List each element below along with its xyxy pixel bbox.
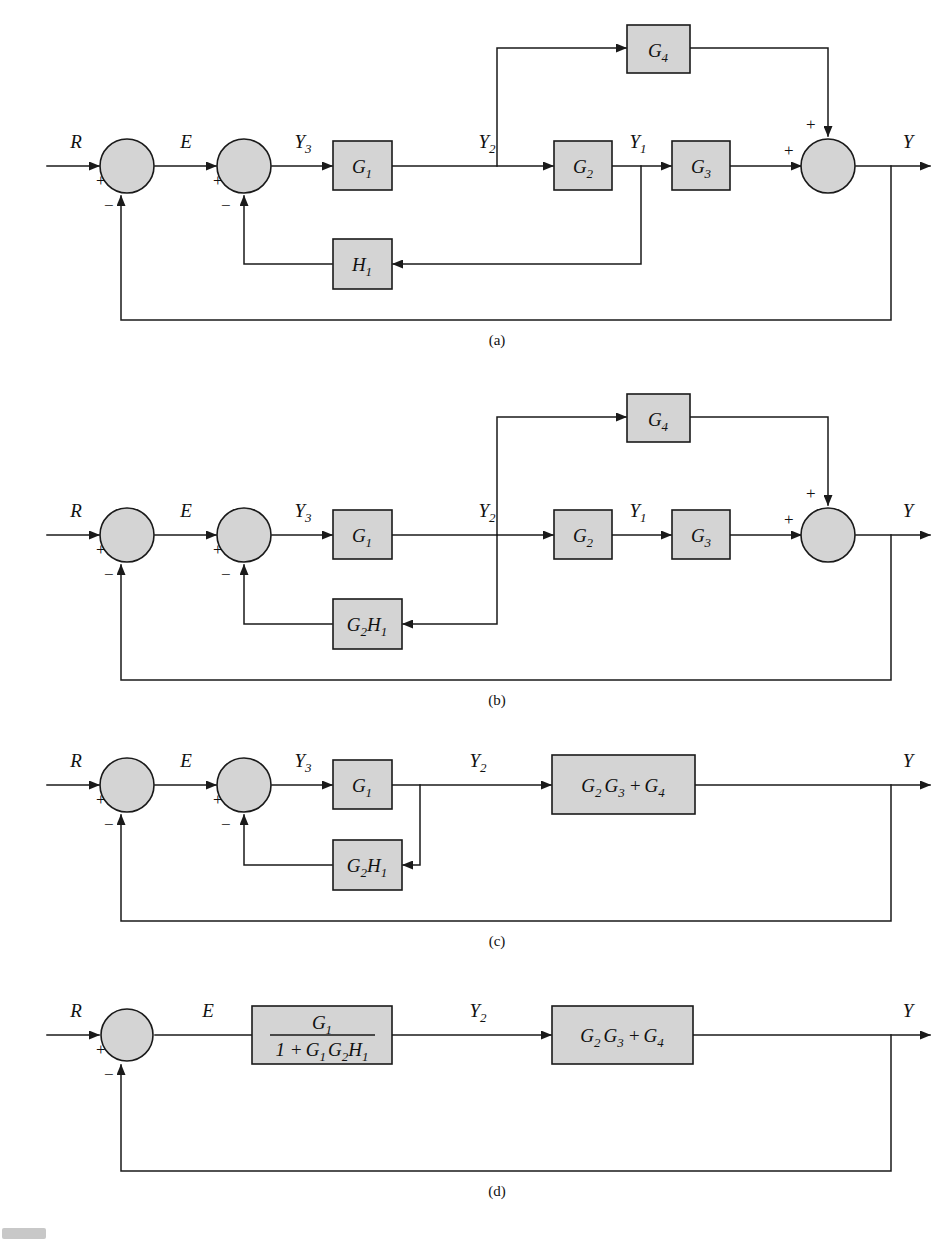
wire-d-output-feedback <box>121 1035 891 1171</box>
sum-junction-c1[interactable] <box>100 758 154 812</box>
sign-c2-minus: − <box>221 815 231 834</box>
sign-c2-plus: + <box>213 790 223 809</box>
panel-label-a: (a) <box>489 332 506 349</box>
sum-junction-a2[interactable] <box>217 139 271 193</box>
signal-label-c-R: R <box>69 750 82 771</box>
sum-junction-c2[interactable] <box>217 758 271 812</box>
panel-b: G1 G2 G3 G4 G2H1 R E Y3 Y2 Y1 Y + − + − … <box>47 394 930 709</box>
panel-d: G1 1 +G1G2H1 G2G3+G4 R E Y2 Y + − (d) <box>47 1000 930 1200</box>
sum-junction-d1[interactable] <box>101 1009 153 1061</box>
sum-junction-b2[interactable] <box>217 508 271 562</box>
signal-label-c-Y3: Y3 <box>294 750 312 775</box>
sign-a1-plus: + <box>96 171 106 190</box>
panel-label-c: (c) <box>489 933 506 950</box>
signal-label-b-Y1: Y1 <box>629 500 646 525</box>
wire-a-H1-to-sum2 <box>244 196 332 264</box>
sign-b1-plus: + <box>96 540 106 559</box>
sign-a1-minus: − <box>104 196 114 215</box>
sign-a3-plus-left: + <box>784 141 794 160</box>
sum-junction-a3[interactable] <box>801 139 855 193</box>
signal-label-a-Y2: Y2 <box>478 131 496 156</box>
figure-canvas: G1 G2 G3 G4 H1 R E Y3 Y2 Y1 Y + − + − + … <box>0 0 952 1242</box>
panel-label-d: (d) <box>488 1183 506 1200</box>
sign-b2-plus: + <box>213 540 223 559</box>
sign-b3-plus-top: + <box>806 484 816 503</box>
sum-junction-b3[interactable] <box>801 508 855 562</box>
signal-label-c-E: E <box>179 750 192 771</box>
wire-b-G2H1-to-sum2 <box>244 565 332 624</box>
sign-d1-minus: − <box>104 1065 114 1084</box>
sign-b3-plus-left: + <box>784 510 794 529</box>
sign-a2-minus: − <box>221 196 231 215</box>
signal-label-c-Y2: Y2 <box>469 750 487 775</box>
wire-b-Y2-to-G2H1 <box>403 535 497 624</box>
signal-label-a-Y1: Y1 <box>629 131 646 156</box>
signal-label-c-Y: Y <box>903 750 916 771</box>
sign-d1-plus: + <box>96 1040 106 1059</box>
sign-a3-plus-top: + <box>806 115 816 134</box>
figure-caption <box>0 1222 952 1242</box>
signal-label-d-R: R <box>69 1000 82 1021</box>
signal-label-a-Y3: Y3 <box>294 131 312 156</box>
panel-a: G1 G2 G3 G4 H1 R E Y3 Y2 Y1 Y + − + − + … <box>47 25 930 349</box>
panel-c: G1 G2H1 G2G3+G4 R E Y3 Y2 Y + − + − (c) <box>47 750 930 950</box>
signal-label-b-Y3: Y3 <box>294 500 312 525</box>
sign-c1-plus: + <box>96 790 106 809</box>
wire-c-G2H1-to-sum2 <box>244 815 332 865</box>
sign-b2-minus: − <box>221 565 231 584</box>
sign-a2-plus: + <box>213 171 223 190</box>
sign-c1-minus: − <box>104 815 114 834</box>
signal-label-d-Y2: Y2 <box>469 1000 487 1025</box>
signal-label-b-Y: Y <box>903 500 916 521</box>
sign-b1-minus: − <box>104 565 114 584</box>
signal-label-b-R: R <box>69 500 82 521</box>
sum-junction-a1[interactable] <box>100 139 154 193</box>
signal-label-b-Y2: Y2 <box>478 500 496 525</box>
signal-label-a-R: R <box>69 131 82 152</box>
sum-junction-b1[interactable] <box>100 508 154 562</box>
wire-c-Y2-to-G2H1 <box>403 785 420 865</box>
signal-label-b-E: E <box>179 500 192 521</box>
block-diagram-svg: G1 G2 G3 G4 H1 R E Y3 Y2 Y1 Y + − + − + … <box>0 0 952 1242</box>
signal-label-d-E: E <box>201 1000 214 1021</box>
signal-label-d-Y: Y <box>903 1000 916 1021</box>
signal-label-a-Y: Y <box>903 131 916 152</box>
signal-label-a-E: E <box>179 131 192 152</box>
panel-label-b: (b) <box>488 692 506 709</box>
